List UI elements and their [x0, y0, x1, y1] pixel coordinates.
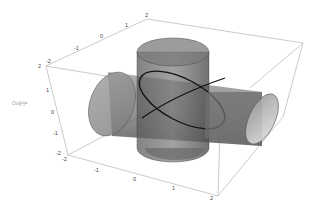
svg-text:-1: -1 [94, 167, 99, 173]
svg-text:-2: -2 [56, 150, 61, 156]
top-axis-ticks: -2 -1 0 1 2 [46, 12, 148, 64]
3d-plot[interactable]: -2 -1 0 1 2 2 1 0 -1 -2 -2 -1 0 1 2 [0, 0, 320, 215]
svg-text:0: 0 [100, 33, 103, 39]
svg-text:-1: -1 [53, 130, 58, 136]
svg-text:2: 2 [38, 63, 41, 69]
svg-text:1: 1 [46, 87, 49, 93]
svg-text:-2: -2 [62, 156, 67, 162]
bottom-axis-ticks: -2 -1 0 1 2 [62, 156, 213, 201]
svg-text:2: 2 [210, 195, 213, 201]
svg-text:0: 0 [51, 109, 54, 115]
vertical-axis-ticks: 2 1 0 -1 -2 [38, 63, 61, 156]
vertical-cylinder-top-cap [137, 38, 209, 66]
svg-text:-2: -2 [46, 58, 51, 64]
svg-text:1: 1 [172, 185, 175, 191]
svg-text:1: 1 [125, 22, 128, 28]
svg-text:0: 0 [133, 176, 136, 182]
svg-text:2: 2 [145, 12, 148, 18]
svg-text:-1: -1 [74, 45, 79, 51]
